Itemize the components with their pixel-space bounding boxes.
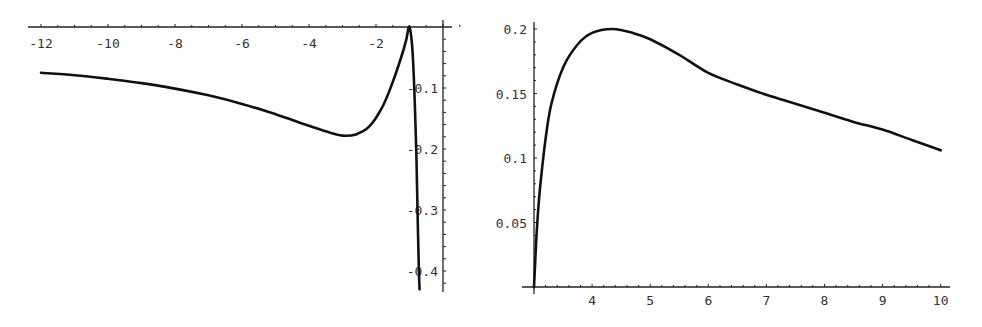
x-tick-label: -4 (301, 36, 317, 51)
x-tick-label: 7 (762, 293, 770, 308)
y-tick-label: -0.1 (407, 81, 438, 96)
data-curve (41, 27, 420, 290)
y-tick-label: -0.4 (407, 264, 438, 279)
x-tick-label: -6 (234, 36, 250, 51)
x-tick-label: 5 (646, 293, 654, 308)
charts-canvas: -12-10-8-6-4-2-0.1-0.2-0.3-0.4 456789100… (0, 0, 982, 327)
x-tick-label: -12 (29, 36, 52, 51)
left-chart: -12-10-8-6-4-2-0.1-0.2-0.3-0.4 (28, 20, 460, 292)
y-tick-label: 0.2 (504, 22, 527, 37)
y-tick-label: -0.2 (407, 142, 438, 157)
x-tick-label: 10 (933, 293, 949, 308)
x-tick-label: -8 (167, 36, 183, 51)
x-tick-label: 6 (704, 293, 712, 308)
y-tick-label: 0.05 (496, 216, 527, 231)
x-tick-label: 8 (821, 293, 829, 308)
y-tick-label: 0.15 (496, 87, 527, 102)
right-chart: 456789100.050.10.150.2 (496, 22, 950, 308)
data-curve (534, 29, 941, 287)
x-tick-label: 9 (879, 293, 887, 308)
x-tick-label: 4 (588, 293, 596, 308)
x-tick-label: -10 (96, 36, 119, 51)
x-tick-label: -2 (368, 36, 384, 51)
y-tick-label: -0.3 (407, 203, 438, 218)
y-tick-label: 0.1 (504, 151, 527, 166)
